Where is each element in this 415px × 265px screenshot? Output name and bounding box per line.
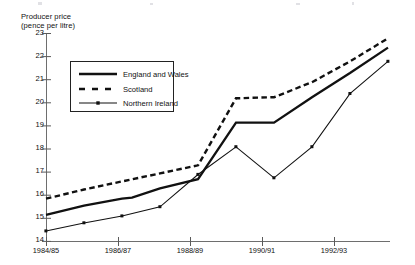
legend-label: England and Wales [123, 70, 189, 79]
solid-thick-line-swatch [77, 67, 119, 81]
legend-item-scotland: Scotland [71, 82, 175, 96]
chart-legend: England and Wales Scotland Northern Irel… [70, 61, 174, 112]
marker-line-swatch [77, 96, 119, 110]
legend-item-england-and-wales: England and Wales [71, 67, 175, 81]
plot-area [0, 0, 415, 265]
producer-price-line-chart: Producer price (pence per litre) 23 22 2… [0, 0, 415, 265]
legend-label: Scotland [123, 85, 153, 94]
legend-label: Northern Ireland [123, 99, 178, 108]
dashed-line-swatch [77, 82, 119, 96]
legend-item-northern-ireland: Northern Ireland [71, 96, 175, 110]
